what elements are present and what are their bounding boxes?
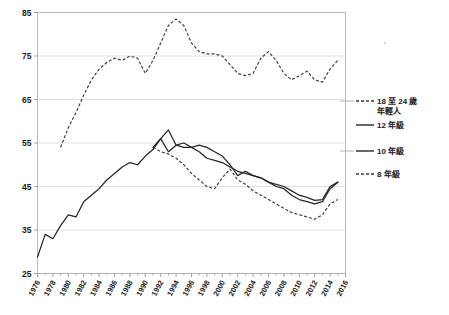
y-axis-label: 25 xyxy=(22,269,32,279)
x-axis-label: 1986 xyxy=(103,279,119,298)
y-axis-label: 75 xyxy=(22,51,32,61)
x-axis-label: 2000 xyxy=(211,279,227,298)
x-axis-label: 1976 xyxy=(26,279,42,298)
y-axis-label: 85 xyxy=(22,8,32,18)
line-chart: 85756555453525 1976197819801982198419861… xyxy=(0,0,449,315)
legend-label-2: 10 年級 xyxy=(377,146,404,156)
chart-legend: 18 至 24 歲年輕人12 年級10 年級8 年級 xyxy=(356,96,417,179)
legend-label-0: 18 至 24 歲 xyxy=(377,96,417,106)
series-line-3 xyxy=(153,147,338,219)
legend-label-1: 12 年級 xyxy=(377,120,404,130)
y-axis-label: 45 xyxy=(22,182,32,192)
x-axis-label: 1994 xyxy=(165,278,181,298)
x-axis-label: 1988 xyxy=(119,279,135,298)
x-axis-label: 1996 xyxy=(180,279,196,298)
chart-container: 85756555453525 1976197819801982198419861… xyxy=(0,0,449,315)
gridlines-group xyxy=(38,13,346,274)
y-axis-label: 35 xyxy=(22,225,32,235)
x-axis-label: 2010 xyxy=(288,279,304,298)
x-axis-label: 2016 xyxy=(334,279,350,298)
data-series-group xyxy=(38,19,338,257)
series-line-1 xyxy=(38,139,338,257)
legend-label-0-line2: 年輕人 xyxy=(377,106,402,116)
y-tickmarks-group xyxy=(34,13,38,274)
scan-speck xyxy=(384,42,386,44)
series-line-0 xyxy=(61,19,338,147)
x-axis-label: 1990 xyxy=(134,279,150,298)
series-line-2 xyxy=(153,130,338,204)
x-axis-label: 1998 xyxy=(196,279,212,298)
x-axis-label: 2014 xyxy=(319,278,335,298)
x-axis-label: 1980 xyxy=(57,279,73,298)
x-axis-label: 2012 xyxy=(304,279,320,298)
x-axis-label: 2006 xyxy=(257,279,273,298)
x-axis-label: 1982 xyxy=(73,279,89,298)
x-axis-label: 1984 xyxy=(88,278,104,298)
x-tickmarks-group xyxy=(38,274,346,278)
y-axis-label: 55 xyxy=(22,138,32,148)
legend-label-3: 8 年級 xyxy=(377,169,400,179)
y-axis-labels-group: 85756555453525 xyxy=(22,8,32,279)
x-axis-label: 1978 xyxy=(42,279,58,298)
x-axis-label: 2008 xyxy=(273,279,289,298)
y-axis-label: 65 xyxy=(22,95,32,105)
x-axis-label: 2004 xyxy=(242,278,258,298)
x-axis-label: 2002 xyxy=(227,279,243,298)
x-axis-labels-group: 1976197819801982198419861988199019921994… xyxy=(26,278,350,298)
x-axis-label: 1992 xyxy=(150,279,166,298)
